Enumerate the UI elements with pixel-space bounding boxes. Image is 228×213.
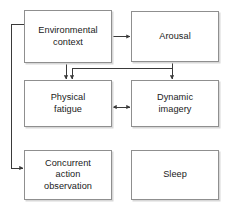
- node-sleep[interactable]: Sleep: [131, 150, 219, 200]
- node-concurrent-action-observation-label: Concurrent action observation: [41, 158, 95, 192]
- node-environmental-context-label: Environmental context: [35, 25, 100, 48]
- node-environmental-context[interactable]: Environmental context: [24, 10, 112, 63]
- connector-environmental-context-to-concurrent-action: [11, 24, 24, 168]
- node-physical-fatigue[interactable]: Physical fatigue: [24, 80, 112, 127]
- node-concurrent-action-observation[interactable]: Concurrent action observation: [24, 150, 112, 200]
- node-dynamic-imagery[interactable]: Dynamic imagery: [131, 80, 219, 127]
- node-sleep-label: Sleep: [160, 169, 190, 180]
- node-arousal-label: Arousal: [156, 31, 194, 42]
- node-dynamic-imagery-label: Dynamic imagery: [154, 92, 196, 115]
- node-arousal[interactable]: Arousal: [131, 11, 219, 62]
- connector-arousal-to-physical-fatigue: [72, 62, 172, 79]
- node-physical-fatigue-label: Physical fatigue: [48, 92, 89, 115]
- diagram-canvas: Environmental context Arousal Physical f…: [0, 0, 228, 213]
